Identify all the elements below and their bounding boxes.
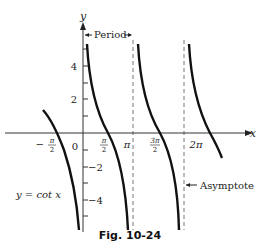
period-label: Period: [94, 29, 127, 40]
x-axis-label: x: [250, 127, 257, 140]
caption-number: 10-24: [126, 229, 161, 242]
caption-prefix: Fig.: [99, 229, 122, 242]
period-arrow-right-icon: [128, 33, 132, 37]
svg-text:−4: −4: [88, 195, 103, 206]
svg-text:2π: 2π: [189, 139, 203, 150]
asymptote-label: Asymptote: [199, 180, 254, 191]
svg-text:−: −: [36, 139, 44, 150]
svg-text:3π: 3π: [150, 137, 159, 145]
svg-text:2: 2: [153, 146, 157, 154]
svg-text:π: π: [101, 137, 107, 145]
y-axis-label: y: [79, 10, 87, 23]
svg-text:2: 2: [50, 146, 54, 154]
svg-text:π: π: [123, 139, 131, 150]
y-axis-arrow-icon: [80, 22, 86, 30]
svg-text:4: 4: [71, 61, 77, 72]
equation-label: y = cot x: [15, 189, 61, 200]
period-arrow-left-icon: [85, 33, 89, 37]
cot-graph: y x Period Asymptote − π 2 0 π 2 π 3π 2 …: [0, 0, 260, 252]
branch-1: [43, 110, 79, 230]
svg-text:−2: −2: [88, 162, 103, 173]
svg-text:π: π: [49, 137, 55, 145]
asymptote-arrow-icon: [186, 183, 190, 187]
svg-text:2: 2: [102, 146, 106, 154]
figure-caption: Fig. 10-24: [0, 229, 260, 242]
svg-text:2: 2: [71, 94, 77, 105]
svg-text:0: 0: [72, 141, 78, 152]
figure: y x Period Asymptote − π 2 0 π 2 π 3π 2 …: [0, 0, 260, 252]
